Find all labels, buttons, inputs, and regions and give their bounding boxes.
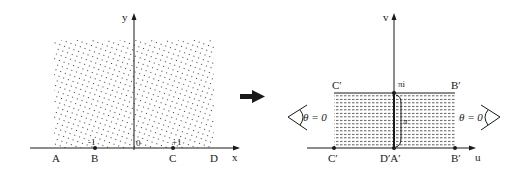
v-axis-arrowhead [392, 13, 397, 20]
v-axis-label: v [383, 11, 389, 23]
right-w-plane: v u πi π C′ B′ C′ D′A′ B′ θ = 0 θ = 0 [288, 11, 500, 164]
u-axis-label: u [475, 151, 481, 163]
y-axis-arrowhead [132, 13, 137, 20]
u-axis-arrowhead [469, 146, 476, 151]
tick-plus-one-label: +1 [172, 137, 182, 147]
left-angle-label: θ = 0 [303, 111, 327, 123]
tick-minus-one-label: -1 [88, 137, 96, 147]
right-wedge-icon [481, 105, 500, 130]
x-axis-label: x [232, 151, 238, 163]
point-c-prime-bottom [332, 146, 336, 150]
point-pi-i [392, 91, 396, 95]
height-pi-label: π [403, 116, 408, 126]
point-c-label: C [169, 152, 176, 164]
point-b-prime-bottom [453, 146, 457, 150]
x-axis-arrowhead [233, 146, 240, 151]
right-angle-label: θ = 0 [459, 111, 483, 123]
bottom-b-prime-label: B′ [451, 152, 461, 164]
point-d-label: D [210, 152, 218, 164]
bottom-c-prime-label: C′ [328, 152, 338, 164]
top-right-b-prime-label: B′ [451, 79, 461, 91]
point-b-label: B [91, 152, 98, 164]
top-left-c-prime-label: C′ [332, 79, 342, 91]
y-axis-label: y [122, 11, 128, 23]
bottom-d-prime-a-prime-label: D′A′ [380, 152, 401, 164]
right-wedge-arc [485, 110, 488, 125]
origin-label: 0 [136, 138, 141, 148]
mapping-arrow-icon [240, 90, 265, 103]
left-z-plane: y x 0 -1 +1 A B C D [30, 11, 240, 164]
pi-i-label: πi [398, 79, 406, 89]
point-d-prime-a-prime [392, 146, 396, 150]
point-a-label: A [52, 152, 60, 164]
